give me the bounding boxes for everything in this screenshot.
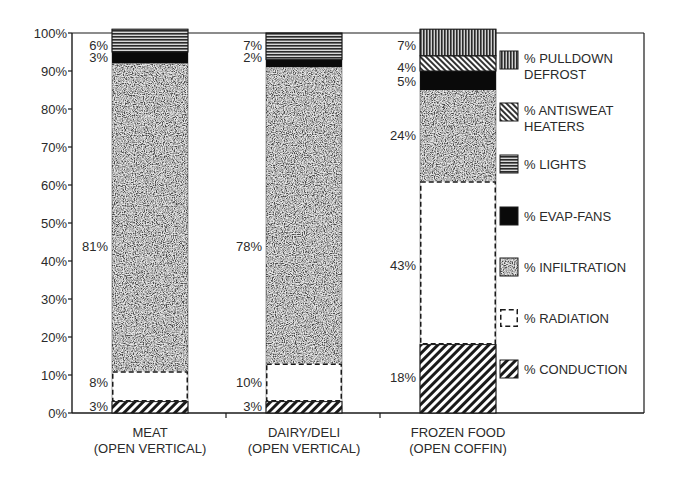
bar-segment <box>112 29 188 52</box>
legend-label: % EVAP-FANS <box>524 209 612 224</box>
bar-segment <box>420 345 496 413</box>
y-axis-ticks: 0%10%20%30%40%50%60%70%80%90%100% <box>34 26 72 421</box>
x-category-sublabel: (OPEN VERTICAL) <box>248 441 360 456</box>
bar-segment <box>420 71 496 90</box>
data-label: 7% <box>397 38 416 53</box>
data-label: 3% <box>243 399 262 414</box>
data-label: 6% <box>89 38 108 53</box>
bar-segment <box>112 402 188 413</box>
legend-swatch-icon <box>500 103 518 121</box>
legend-swatch-icon <box>500 258 518 276</box>
y-tick-label: 50% <box>41 216 67 231</box>
x-category-label: MEAT <box>132 425 167 440</box>
legend-label: % LIGHTS <box>524 157 586 172</box>
y-tick-label: 80% <box>41 102 67 117</box>
legend: % PULLDOWNDEFROST% ANTISWEATHEATERS% LIG… <box>500 51 627 378</box>
data-label: 24% <box>390 128 416 143</box>
data-label: 4% <box>397 60 416 75</box>
bar-segment <box>266 364 342 402</box>
bar-segment <box>420 181 496 344</box>
legend-swatch-icon <box>500 51 518 69</box>
legend-label: % ANTISWEAT <box>524 103 613 118</box>
legend-swatch-icon <box>500 155 518 173</box>
data-label: 78% <box>236 239 262 254</box>
data-label: 81% <box>82 239 108 254</box>
data-label: 7% <box>243 38 262 53</box>
bars <box>112 29 496 413</box>
x-category-sublabel: (OPEN VERTICAL) <box>94 441 206 456</box>
legend-item: % LIGHTS <box>500 155 586 173</box>
bar-segment <box>112 52 188 63</box>
x-category-sublabel: (OPEN COFFIN) <box>409 441 507 456</box>
data-label: 5% <box>397 74 416 89</box>
bar-segment <box>420 56 496 71</box>
bar-segment <box>112 371 188 401</box>
bar-segment <box>266 33 342 60</box>
y-tick-label: 10% <box>41 368 67 383</box>
bar-segment <box>420 90 496 181</box>
legend-swatch-icon <box>500 207 518 225</box>
legend-item: % EVAP-FANS <box>500 207 612 225</box>
y-tick-label: 100% <box>34 26 68 41</box>
data-label: 18% <box>390 370 416 385</box>
y-tick-label: 60% <box>41 178 67 193</box>
legend-label-line2: DEFROST <box>524 67 586 82</box>
legend-item: % CONDUCTION <box>500 360 627 378</box>
legend-label: % CONDUCTION <box>524 362 627 377</box>
x-category-label: DAIRY/DELI <box>268 425 340 440</box>
bar-stack <box>266 33 342 413</box>
x-axis-labels: MEAT(OPEN VERTICAL)DAIRY/DELI(OPEN VERTI… <box>94 425 507 456</box>
data-label: 43% <box>390 258 416 273</box>
y-tick-label: 90% <box>41 64 67 79</box>
y-tick-label: 20% <box>41 330 67 345</box>
bar-segment <box>266 67 342 363</box>
legend-label-line2: HEATERS <box>524 119 585 134</box>
data-label: 8% <box>89 375 108 390</box>
bar-stack <box>112 29 188 413</box>
bar-segment <box>266 60 342 68</box>
data-label: 10% <box>236 375 262 390</box>
y-tick-label: 70% <box>41 140 67 155</box>
bar-segment <box>266 402 342 413</box>
data-label: 3% <box>89 399 108 414</box>
legend-item: % ANTISWEATHEATERS <box>500 103 613 134</box>
stacked-bar-chart: 0%10%20%30%40%50%60%70%80%90%100% 3%8%81… <box>0 0 681 481</box>
y-tick-label: 30% <box>41 292 67 307</box>
legend-item: % INFILTRATION <box>500 258 626 276</box>
legend-swatch-icon <box>500 309 518 327</box>
bar-stack <box>420 29 496 413</box>
legend-item: % PULLDOWNDEFROST <box>500 51 613 82</box>
y-tick-label: 0% <box>48 406 67 421</box>
legend-item: % RADIATION <box>500 309 609 327</box>
legend-label: % INFILTRATION <box>524 260 626 275</box>
x-category-label: FROZEN FOOD <box>411 425 506 440</box>
legend-label: % PULLDOWN <box>524 51 613 66</box>
bar-segment <box>420 29 496 56</box>
y-tick-label: 40% <box>41 254 67 269</box>
legend-swatch-icon <box>500 360 518 378</box>
bar-segment <box>112 63 188 371</box>
legend-label: % RADIATION <box>524 311 609 326</box>
